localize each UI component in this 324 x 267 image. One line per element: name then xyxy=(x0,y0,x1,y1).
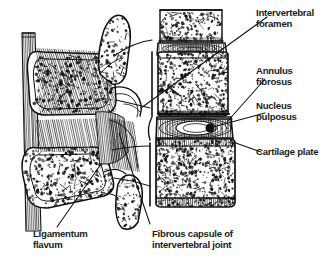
posterior-longitudinal-margin xyxy=(148,52,152,206)
anatomical-illustration xyxy=(0,0,324,267)
intervertebral-disc-lower xyxy=(156,117,233,140)
vertebral-body-upper xyxy=(158,9,226,45)
label-cartilage-plate: Cartilage plate xyxy=(256,146,318,157)
label-intervertebral-foramen: Intervertebral foramen xyxy=(256,7,314,29)
label-fibrous-capsule: Fibrous capsule of intervertebral joint xyxy=(152,228,233,250)
vertebral-body-middle xyxy=(153,51,232,118)
nucleus-pulposus-region xyxy=(176,121,216,135)
anatomy-figure: Intervertebral foramen Annulus fibrosus … xyxy=(0,0,324,267)
label-ligamentum-flavum: Ligamentum flavum xyxy=(33,228,88,250)
label-nucleus-pulposus: Nucleus pulposus xyxy=(256,100,297,122)
label-annulus-fibrosus: Annulus fibrosus xyxy=(256,65,293,87)
